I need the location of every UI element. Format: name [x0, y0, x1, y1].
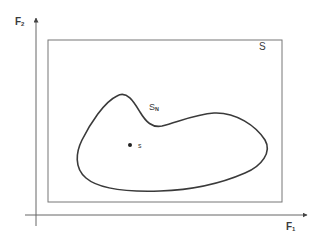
feasible-region-diagram: F2 F1 S SN s: [0, 0, 323, 243]
y-axis-label: F2: [15, 17, 24, 27]
region-sn-curve: [77, 94, 267, 191]
region-s-rectangle: [48, 40, 282, 202]
diagram-canvas: [0, 0, 323, 243]
x-axis-label: F1: [286, 222, 295, 232]
region-sn-label: SN: [149, 103, 159, 112]
point-s-label: s: [138, 142, 142, 149]
point-s-dot: [128, 143, 132, 147]
region-s-label: S: [259, 42, 266, 52]
